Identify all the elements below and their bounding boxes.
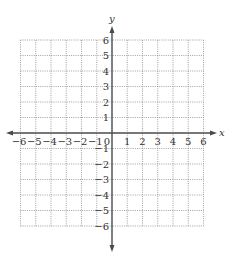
x-tick-label: 6 (200, 136, 206, 147)
x-axis-right-arrow-icon (210, 131, 217, 136)
y-tick-label: 2 (103, 97, 109, 108)
y-tick-label: −3 (94, 174, 109, 185)
x-tick-label: 1 (124, 136, 130, 147)
x-tick-label: −5 (27, 136, 42, 147)
coordinate-plane: −6−5−4−3−2−10123456−6−5−4−3−2−1123456 x … (0, 0, 232, 255)
x-tick-label: −6 (12, 136, 27, 147)
x-tick-label: −4 (42, 136, 57, 147)
x-tick-label: 2 (139, 136, 145, 147)
y-tick-label: 3 (103, 81, 109, 92)
x-tick-label: −3 (57, 136, 72, 147)
x-tick-label: 3 (155, 136, 161, 147)
y-axis-down-arrow-icon (110, 245, 115, 252)
x-axis-label: x (219, 127, 225, 138)
y-tick-label: 4 (103, 66, 109, 77)
x-tick-label: −2 (73, 136, 88, 147)
y-tick-label: −5 (94, 205, 109, 216)
y-tick-label: 5 (103, 50, 109, 61)
x-axis-left-arrow-icon (6, 131, 13, 136)
x-tick-label: 5 (185, 136, 191, 147)
x-tick-label: 4 (170, 136, 176, 147)
y-tick-label: 1 (103, 112, 109, 123)
y-tick-label: 6 (103, 35, 109, 46)
y-tick-label: −2 (94, 159, 109, 170)
y-tick-label: −4 (94, 190, 109, 201)
y-tick-label: −6 (94, 221, 109, 232)
y-axis-up-arrow-icon (110, 26, 115, 33)
y-axis-label: y (108, 13, 115, 24)
y-tick-label: −1 (94, 143, 109, 154)
